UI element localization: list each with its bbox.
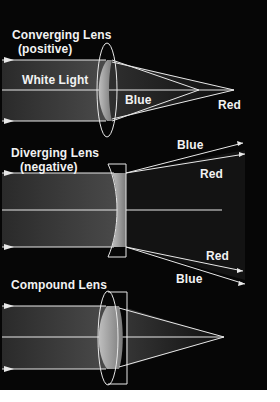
arrow-icon (237, 141, 243, 146)
converging-lens-title: Converging Lens (12, 29, 112, 41)
converging-lens-group (2, 43, 234, 137)
white-light-label: White Light (22, 74, 88, 86)
compound-lens-group (2, 291, 224, 385)
red-top-label: Red (200, 168, 223, 180)
red-bottom-label: Red (206, 250, 229, 262)
lens-glass (99, 306, 123, 369)
diverging-lens-title: Diverging Lens (11, 147, 99, 159)
blue-label: Blue (125, 94, 151, 106)
converging-lens-subtitle: (positive) (18, 43, 72, 55)
arrow-icon (238, 281, 245, 286)
red-label: Red (218, 99, 241, 111)
compound-lens-title: Compound Lens (11, 279, 107, 291)
diverging-lens-subtitle: (negative) (20, 161, 78, 173)
blue-top-label: Blue (177, 139, 203, 151)
lens-diagram (0, 0, 267, 390)
blue-bottom-label: Blue (176, 273, 202, 285)
